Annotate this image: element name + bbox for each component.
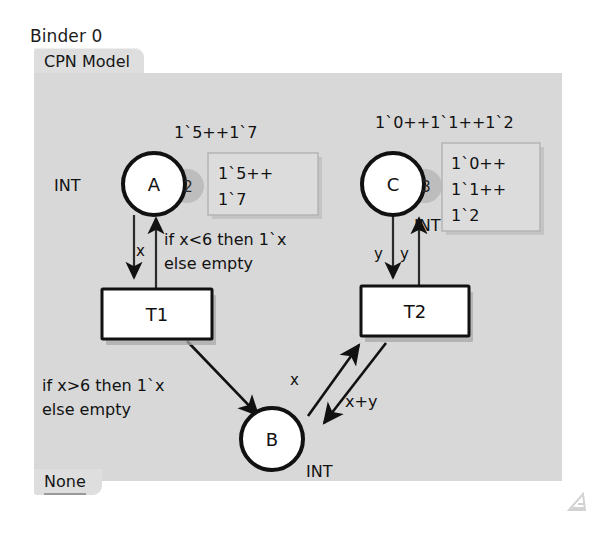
arc-c-to-t2-inscription: y	[374, 245, 383, 263]
place-c-marking-inline: 1`0++1`1++1`2	[375, 113, 514, 132]
binder-title: Binder 0	[30, 26, 102, 46]
arc-b-to-t2-inscription: x	[290, 371, 299, 389]
arc-t2-to-c-inscription: y	[400, 245, 409, 263]
place-c-colorset: INT	[414, 216, 441, 235]
cpn-net-diagram: T1 T2 A 2 INT 1`5++1`7 1`5++	[34, 73, 562, 481]
transition-t2[interactable]: T2	[361, 286, 473, 342]
place-c[interactable]: C 3	[362, 153, 442, 215]
place-c-marking-box: 1`0++ 1`1++ 1`2	[442, 143, 544, 235]
arc-t2-to-b-inscription: x+y	[345, 392, 377, 411]
place-a-marking-box: 1`5++ 1`7	[208, 153, 322, 219]
transition-t2-label: T2	[403, 301, 426, 322]
place-a-marking-line-2: 1`7	[218, 190, 246, 209]
binder-window: Binder 0 CPN Model	[26, 26, 574, 511]
arc-t1-to-b[interactable]	[187, 341, 258, 415]
place-c-token-count: 3	[421, 178, 431, 196]
place-c-label: C	[387, 174, 400, 195]
place-b-label: B	[266, 429, 278, 450]
tab-none[interactable]: None	[34, 469, 102, 495]
place-c-marking-line-1: 1`0++	[451, 154, 506, 173]
arc-t1-to-b-inscription-line-2: else empty	[42, 400, 131, 419]
resize-grip-icon[interactable]	[566, 492, 588, 512]
place-a-token-count: 2	[183, 178, 193, 196]
place-c-marking-line-3: 1`2	[451, 206, 479, 225]
arc-t1-to-b-inscription-line-1: if x>6 then 1`x	[42, 376, 164, 395]
transition-t1-label: T1	[145, 304, 168, 325]
place-c-marking-line-2: 1`1++	[451, 180, 506, 199]
place-a-colorset: INT	[54, 176, 81, 195]
tab-cpn-model[interactable]: CPN Model	[34, 48, 144, 76]
arc-a-to-t1-inscription: x	[136, 242, 145, 260]
arc-t1-to-a-inscription-line-2: else empty	[164, 254, 253, 273]
transition-t1[interactable]: T1	[102, 289, 216, 345]
place-a-label: A	[148, 174, 161, 195]
place-b-colorset: INT	[306, 462, 333, 481]
place-a-marking-line-1: 1`5++	[218, 164, 273, 183]
place-a-marking-inline: 1`5++1`7	[174, 123, 258, 142]
arc-t1-to-a-inscription-line-1: if x<6 then 1`x	[164, 230, 286, 249]
cpn-model-canvas[interactable]: T1 T2 A 2 INT 1`5++1`7 1`5++	[34, 73, 562, 481]
place-a[interactable]: A 2	[123, 153, 204, 215]
place-b[interactable]: B	[241, 408, 303, 470]
tab-none-label: None	[44, 470, 86, 495]
